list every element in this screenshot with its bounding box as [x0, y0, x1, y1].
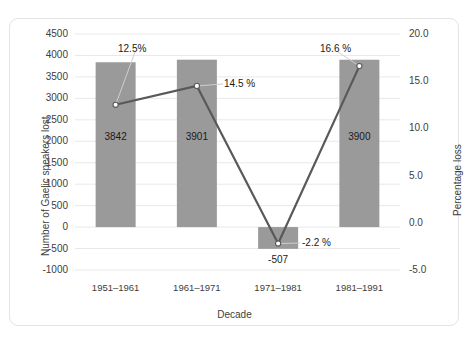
percentage-label: 14.5 % — [224, 79, 255, 89]
y-axis-left-tick-label: -1000 — [26, 265, 68, 275]
y-axis-left-tick-label: 3000 — [26, 93, 68, 103]
bar-value-label: -507 — [233, 255, 323, 265]
percentage-label: 16.6 % — [320, 44, 351, 54]
y-axis-right-tick-label: 20.0 — [409, 29, 451, 39]
x-axis-title: Decade — [0, 309, 469, 320]
bar — [96, 62, 136, 227]
y-axis-right-tick-label: 5.0 — [409, 171, 451, 181]
percentage-label: 12.5% — [118, 44, 146, 54]
line-markers — [113, 63, 362, 246]
line-marker — [194, 83, 199, 88]
x-axis-tick-label: 1961–1971 — [152, 283, 242, 293]
bar-value-label: 3900 — [314, 132, 404, 142]
y-axis-right-tick-label: 10.0 — [409, 123, 451, 133]
line-marker — [113, 102, 118, 107]
y-axis-left-tick-label: 4500 — [26, 29, 68, 39]
y-axis-left-tick-label: 3500 — [26, 72, 68, 82]
line-marker — [357, 63, 362, 68]
bar-value-label: 3842 — [71, 132, 161, 142]
line-path — [116, 66, 360, 243]
x-axis-tick-label: 1951–1961 — [71, 283, 161, 293]
percentage-line-series — [116, 66, 360, 243]
y-axis-right-tick-label: 15.0 — [409, 76, 451, 86]
y-axis-left-tick-label: 4000 — [26, 50, 68, 60]
leader-line — [278, 243, 300, 244]
x-axis-tick-label: 1971–1981 — [233, 283, 323, 293]
line-marker — [276, 241, 281, 246]
percentage-label: -2.2 % — [302, 238, 331, 248]
bar-value-label: 3901 — [152, 132, 242, 142]
bar — [339, 60, 379, 227]
x-axis-tick-label: 1981–1991 — [314, 283, 404, 293]
y-axis-left-title: Number of Gaelic speakers lost — [40, 116, 51, 256]
y-axis-right-tick-label: 0.0 — [409, 218, 451, 228]
chart-figure: 450040003500300025002000150010005000-500… — [0, 0, 469, 340]
y-axis-right-title: Percentage loss — [452, 144, 463, 216]
y-axis-right-tick-label: -5.0 — [409, 265, 451, 275]
